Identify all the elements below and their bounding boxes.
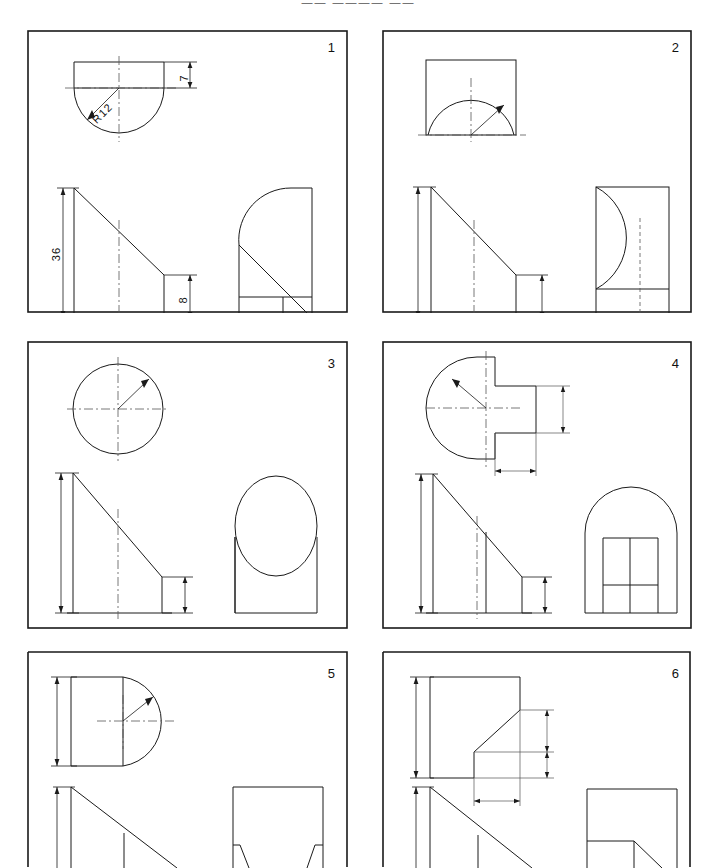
- dimension-label-8: 8: [177, 296, 189, 303]
- panel-3[interactable]: 3: [27, 341, 348, 629]
- panel-4[interactable]: 4: [382, 341, 692, 629]
- panel-3-drawing: 3: [27, 341, 348, 629]
- dimension-label-36: 36: [50, 247, 62, 261]
- panel-1[interactable]: 1 7 R12: [27, 30, 348, 313]
- panel-2-drawing: 2: [382, 30, 692, 313]
- dimension-label-7: 7: [178, 74, 190, 81]
- panel-6[interactable]: 6: [382, 651, 692, 868]
- panel-number-label: 4: [672, 356, 679, 371]
- panel-5-drawing: 5: [27, 651, 348, 868]
- panel-5[interactable]: 5: [27, 651, 348, 868]
- panel-4-drawing: 4: [382, 341, 692, 629]
- panel-2[interactable]: 2: [382, 30, 692, 313]
- panel-number-label: 3: [328, 356, 335, 371]
- dimension-label-r12: R12: [90, 101, 115, 126]
- panel-number-label: 6: [672, 666, 679, 681]
- panel-number-label: 5: [328, 666, 335, 681]
- panel-1-drawing: 1 7 R12: [27, 30, 348, 313]
- sheet-header-text: —— ———— ——: [0, 0, 717, 6]
- panel-6-drawing: 6: [382, 651, 692, 868]
- panel-number-label: 2: [672, 40, 679, 55]
- drawing-sheet: —— ———— —— 1: [0, 0, 717, 868]
- panel-number-label: 1: [328, 40, 335, 55]
